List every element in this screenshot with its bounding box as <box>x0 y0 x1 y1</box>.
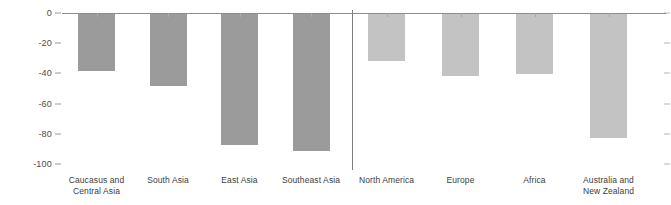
x-label-line1: Australia and <box>564 175 654 186</box>
bar-europe <box>442 14 479 76</box>
bar-east-asia <box>221 14 258 145</box>
y-tick-label-40: -40 <box>38 68 52 78</box>
y-tick-mark-40 <box>55 73 61 74</box>
x-label-line2: New Zealand <box>564 186 654 197</box>
x-tick-mark-2 <box>240 13 241 17</box>
y-tick-mark-20 <box>55 43 61 44</box>
x-tick-mark-3 <box>311 13 312 17</box>
bar-south-asia <box>150 14 187 86</box>
y-tick-mark-100 <box>55 164 61 165</box>
x-label-line2: Central Asia <box>52 186 142 197</box>
bar-southeast-asia <box>293 14 330 151</box>
x-tick-mark-0 <box>97 13 98 17</box>
x-tick-mark-5 <box>461 13 462 17</box>
y-tick-label-80: -80 <box>38 129 52 139</box>
y-tick-mark-right-80 <box>664 133 670 134</box>
x-tick-mark-6 <box>535 13 536 17</box>
y-tick-label-100: -100 <box>33 159 52 169</box>
y-tick-mark-right-20 <box>664 43 670 44</box>
bar-chart: 0 -20 -40 -60 -80 -100 Caucasus and Cent… <box>0 0 671 205</box>
bar-australia-and-new-zealand <box>590 14 627 138</box>
y-tick-label-20: -20 <box>38 38 52 48</box>
x-tick-mark-7 <box>609 13 610 17</box>
y-tick-label-60: -60 <box>38 99 52 109</box>
bar-africa <box>516 14 553 74</box>
x-tick-mark-1 <box>168 13 169 17</box>
y-tick-mark-right-60 <box>664 103 670 104</box>
y-tick-mark-0 <box>55 13 61 14</box>
x-tick-mark-4 <box>387 13 388 17</box>
group-divider <box>352 10 353 170</box>
x-label-australia-and-new-zealand: Australia and New Zealand <box>564 175 654 196</box>
bar-north-america <box>368 14 405 61</box>
y-tick-mark-60 <box>55 103 61 104</box>
y-tick-mark-80 <box>55 133 61 134</box>
bar-caucasus-and-central-asia <box>78 14 115 71</box>
y-tick-label-0: 0 <box>47 8 52 18</box>
y-tick-mark-right-100 <box>664 164 670 165</box>
y-tick-mark-right-40 <box>664 73 670 74</box>
